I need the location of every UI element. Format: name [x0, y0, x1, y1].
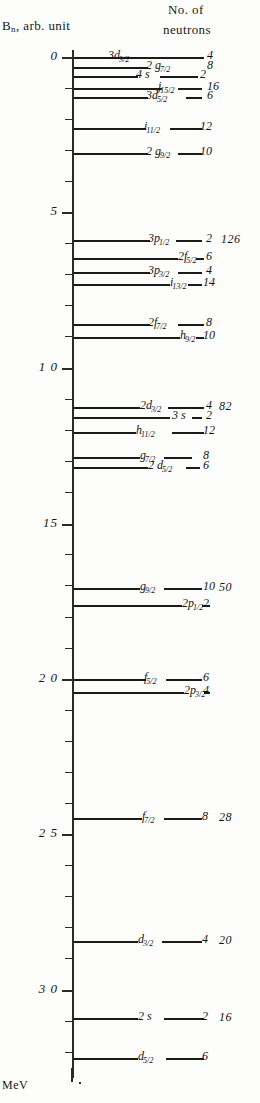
axis-tick-minor	[65, 399, 73, 400]
axis-tick-minor	[65, 772, 73, 773]
level-line-right	[160, 76, 198, 78]
orbital-label-main: 2 s	[138, 1009, 152, 1023]
orbital-label-main: 4 s	[136, 67, 150, 81]
magic-number: 126	[221, 232, 241, 247]
degeneracy-value: 10	[203, 329, 215, 341]
orbital-label: 2 g9/2	[146, 145, 171, 157]
axis-tick-minor	[65, 585, 73, 586]
orbital-label-subscript: 7/2	[144, 816, 154, 825]
axis-tick-minor	[65, 648, 73, 649]
level-line-right	[178, 272, 202, 274]
level-line-right	[166, 679, 202, 681]
axis-tick-label: 3 0	[22, 981, 58, 997]
axis-title-unit: , arb. unit	[16, 18, 70, 33]
orbital-label-subscript: 5/2	[143, 1056, 153, 1065]
orbital-label-subscript: 3/2	[151, 405, 161, 414]
axis-tick-minor	[65, 803, 73, 804]
orbital-label: d3/2	[138, 933, 154, 945]
level-line-left	[74, 97, 148, 99]
axis-tick-major	[62, 990, 74, 992]
degeneracy-value: 6	[203, 671, 209, 683]
orbital-label-subscript: 3/2	[159, 270, 169, 279]
axis-tick-major	[62, 368, 74, 370]
degeneracy-value: 10	[203, 580, 215, 592]
orbital-label-subscript: 11/2	[141, 430, 155, 439]
orbital-label-subscript: 1/2	[193, 603, 203, 612]
orbital-label-subscript: 5/2	[157, 95, 167, 104]
level-line-right	[164, 588, 202, 590]
orbital-label-subscript: 9/2	[145, 586, 155, 595]
degeneracy-value: 6	[203, 459, 209, 471]
level-line-right	[162, 941, 202, 943]
orbital-label: f7/2	[142, 810, 156, 822]
level-line-left	[74, 1058, 138, 1060]
axis-unit-label: MeV	[2, 1078, 28, 1093]
axis-tick-minor	[65, 710, 73, 711]
orbital-label-subscript: 5/2	[162, 465, 172, 474]
degeneracy-value: 8	[202, 810, 208, 822]
axis-tick-major	[62, 57, 74, 59]
axis-tick-major	[62, 679, 74, 681]
degeneracy-value: 4	[202, 933, 208, 945]
magic-number: 16	[219, 1010, 232, 1025]
axis-tick-minor	[65, 274, 73, 275]
level-line-left	[74, 467, 148, 469]
level-line-left	[74, 284, 170, 286]
axis-tick-label: 0	[22, 48, 58, 64]
axis-tick-minor	[65, 896, 73, 897]
axis-tick-minor	[65, 336, 73, 337]
axis-tick-minor	[65, 88, 73, 89]
magic-number: 82	[219, 399, 232, 414]
level-line-right	[164, 818, 202, 820]
level-line-right	[170, 128, 202, 130]
level-line-right	[188, 284, 202, 286]
degeneracy-value: 10	[200, 145, 212, 157]
axis-tick-minor	[65, 150, 73, 151]
magic-number: 28	[219, 810, 232, 825]
level-line-left	[74, 258, 178, 260]
magic-number: 20	[219, 933, 232, 948]
axis-tick-minor	[65, 181, 73, 182]
orbital-label-subscript: 1/2	[159, 238, 169, 247]
degeneracy-value: 6	[202, 1050, 208, 1062]
degeneracy-value: 2	[203, 597, 209, 609]
level-line-right	[178, 324, 204, 326]
degeneracy-value: 12	[200, 120, 212, 132]
axis-tick-minor	[65, 492, 73, 493]
level-line-right	[166, 1058, 204, 1060]
orbital-label-main: 3 s	[172, 408, 186, 422]
degeneracy-value: 8	[207, 59, 213, 71]
axis-title-main: B	[2, 18, 11, 33]
orbital-label: 2 s	[138, 1010, 152, 1022]
axis-tick-minor	[65, 119, 73, 120]
level-line-left	[74, 1018, 138, 1020]
level-line-right	[172, 432, 204, 434]
neutron-count-heading-line1: No. of	[168, 2, 204, 18]
orbital-label: d5/2	[138, 1050, 154, 1062]
level-line-left	[74, 679, 146, 681]
axis-tick-label: 1 0	[22, 359, 58, 375]
orbital-label: 2d3/2	[140, 399, 162, 411]
level-line-left	[74, 818, 142, 820]
orbital-label: h11/2	[136, 424, 156, 436]
level-line-right	[178, 153, 202, 155]
degeneracy-value: 2	[206, 232, 212, 244]
axis-tick-label: 2 5	[22, 825, 58, 841]
axis-tick-minor	[65, 741, 73, 742]
level-line-right	[178, 88, 202, 90]
level-line-left	[74, 588, 140, 590]
level-line-left	[74, 605, 182, 607]
axis-tick-minor	[65, 617, 73, 618]
axis-title: Bn, arb. unit	[2, 18, 70, 34]
level-line-left	[74, 337, 180, 339]
shell-model-level-diagram: Bn, arb. unit No. of neutrons MeV 051 01…	[0, 0, 260, 1103]
level-line-left	[74, 407, 140, 409]
level-line-left	[74, 457, 140, 459]
degeneracy-value: 2	[200, 68, 206, 80]
axis-tick-major	[62, 524, 74, 526]
orbital-label: f5/2	[144, 671, 158, 683]
axis-tick-minor	[65, 1052, 73, 1053]
axis-tick-major	[62, 834, 74, 836]
orbital-label: 3d5/2	[146, 89, 168, 101]
axis-tick-minor	[65, 958, 73, 959]
